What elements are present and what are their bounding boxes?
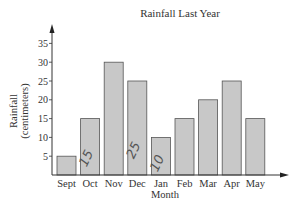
y-tick-label: 20 — [38, 94, 48, 105]
x-tick-label: Dec — [129, 178, 146, 189]
y-tick-label: 25 — [38, 76, 48, 87]
bar-dec — [128, 81, 147, 175]
bar-sept — [57, 156, 76, 175]
bar-feb — [175, 119, 194, 175]
x-tick-label: Sept — [57, 178, 76, 189]
x-tick-label: Feb — [177, 178, 193, 189]
bar-may — [246, 119, 265, 175]
x-tick-label: Apr — [224, 178, 241, 189]
y-tick-label: 35 — [38, 38, 48, 49]
x-tick-label: Jan — [154, 178, 169, 189]
x-tick-label: Mar — [199, 178, 217, 189]
x-tick-label: Oct — [83, 178, 98, 189]
y-tick-label: 30 — [38, 57, 48, 68]
y-tick-label: 5 — [43, 151, 48, 162]
y-axis-arrow-icon — [50, 24, 55, 33]
x-tick-label: May — [246, 178, 266, 189]
bar-nov — [104, 62, 123, 175]
y-tick-label: 15 — [38, 113, 48, 124]
bar-chart: SeptOctNovDecJanFebMarAprMay510152025303… — [0, 0, 300, 210]
x-axis-arrow-icon — [280, 173, 289, 178]
bar-apr — [222, 81, 241, 175]
bar-mar — [199, 100, 218, 175]
y-tick-label: 10 — [38, 132, 48, 143]
x-tick-label: Nov — [105, 178, 124, 189]
